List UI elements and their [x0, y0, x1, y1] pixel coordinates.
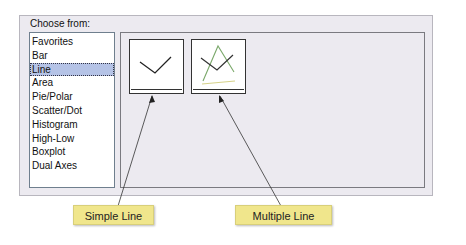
simple-line-callout: Simple Line [73, 205, 154, 225]
multiple-line-callout: Multiple Line [235, 205, 332, 225]
callout-pointer-lines [0, 0, 466, 245]
